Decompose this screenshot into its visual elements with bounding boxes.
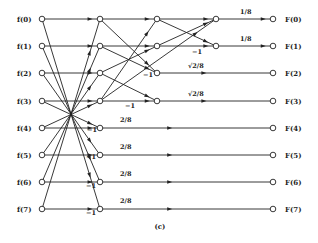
gain-label: 2/8 (120, 116, 132, 124)
node (270, 125, 276, 131)
node (154, 70, 160, 76)
node (97, 98, 103, 104)
caption: (c) (155, 222, 166, 231)
arrow-icon (145, 17, 150, 21)
input-label: f(3) (17, 97, 32, 106)
node (270, 98, 276, 104)
node (270, 179, 276, 185)
labels: f(0)f(1)f(2)f(3)f(4)f(5)f(6)f(7)F(0)F(1)… (17, 8, 301, 217)
gain-label: −1 (125, 102, 135, 110)
input-label: f(2) (17, 69, 32, 78)
node (39, 152, 45, 158)
edge (100, 19, 216, 101)
node (97, 152, 103, 158)
gain-label: −1 (86, 182, 96, 190)
arrow-icon (87, 138, 91, 143)
gain-label: 1/8 (240, 35, 252, 43)
output-label: F(2) (285, 69, 301, 78)
node (39, 179, 45, 185)
gain-label: 2/8 (120, 197, 132, 205)
arrow-icon (203, 39, 208, 43)
output-label: F(6) (285, 178, 301, 187)
node (213, 43, 219, 49)
arrow-icon (87, 85, 91, 90)
gain-label: √2/8 (188, 62, 204, 70)
node (97, 43, 103, 49)
node (97, 70, 103, 76)
output-label: F(4) (285, 124, 301, 133)
arrow-icon (88, 17, 93, 21)
arrow-icon (261, 17, 266, 21)
node (97, 16, 103, 22)
arrow-icon (87, 105, 92, 109)
arrow-icon (203, 44, 208, 48)
input-label: f(1) (17, 42, 32, 51)
gain-label: −1 (192, 48, 202, 56)
node (97, 125, 103, 131)
diagram-canvas: f(0)f(1)f(2)f(3)f(4)f(5)f(6)f(7)F(0)F(1)… (0, 0, 318, 243)
flow-graph-diagram: f(0)f(1)f(2)f(3)f(4)f(5)f(6)f(7)F(0)F(1)… (0, 0, 318, 243)
gain-label: −1 (86, 209, 96, 217)
node (270, 152, 276, 158)
input-label: f(7) (17, 205, 32, 214)
output-label: F(5) (285, 151, 301, 160)
node (39, 43, 45, 49)
gain-label: 1/8 (240, 8, 252, 16)
arrow-icon (145, 99, 150, 103)
gain-label: 2/8 (120, 143, 132, 151)
node (270, 43, 276, 49)
node (154, 98, 160, 104)
node (39, 70, 45, 76)
gain-label: −1 (87, 126, 97, 134)
node (39, 125, 45, 131)
input-label: f(5) (17, 151, 32, 160)
arrow-icon (167, 180, 172, 184)
arrow-icon (167, 153, 172, 157)
arrow-icon (144, 31, 148, 36)
node (154, 16, 160, 22)
gain-label: −1 (86, 153, 96, 161)
node (270, 16, 276, 22)
arrow-icon (144, 93, 149, 97)
arrow-icon (261, 44, 266, 48)
input-label: f(4) (17, 124, 32, 133)
node (270, 206, 276, 212)
node (39, 206, 45, 212)
node (154, 43, 160, 49)
gain-label: 2/8 (120, 170, 132, 178)
nodes (39, 16, 276, 212)
node (213, 16, 219, 22)
output-label: F(3) (285, 97, 301, 106)
input-label: f(6) (17, 178, 32, 187)
arrow-icon (144, 50, 149, 54)
output-label: F(7) (285, 205, 301, 214)
arrow-icon (87, 121, 92, 125)
gain-label: √2/8 (188, 90, 204, 98)
arrow-icon (201, 71, 206, 75)
node (97, 206, 103, 212)
node (39, 98, 45, 104)
arrow-icon (87, 172, 90, 177)
arrow-icon (203, 17, 208, 21)
arrow-icon (88, 99, 93, 103)
output-label: F(0) (285, 15, 301, 24)
gain-label: −1 (143, 71, 153, 79)
node (270, 70, 276, 76)
arrow-icon (167, 126, 172, 130)
arrow-icon (87, 50, 90, 55)
arrow-icon (201, 99, 206, 103)
node (97, 179, 103, 185)
arrow-icon (203, 23, 208, 27)
arrow-icon (167, 207, 172, 211)
input-label: f(0) (17, 15, 32, 24)
node (39, 16, 45, 22)
arrow-icon (145, 44, 150, 48)
output-label: F(1) (285, 42, 301, 51)
